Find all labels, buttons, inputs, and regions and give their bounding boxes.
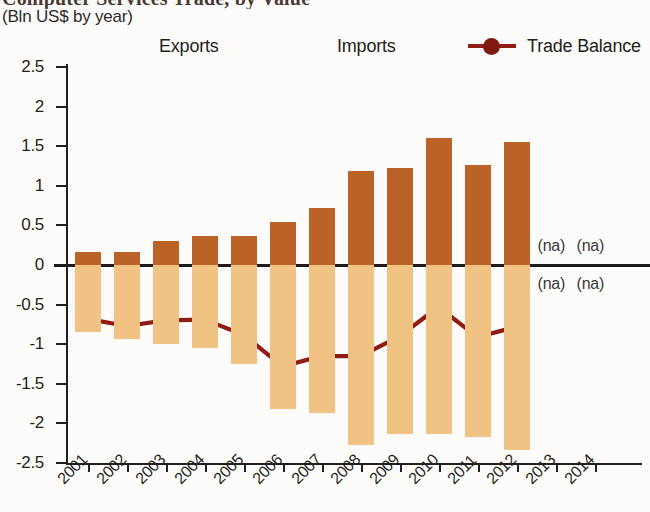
- legend-item-exports[interactable]: Exports: [118, 33, 219, 59]
- chart-plot: 2.521.510.50-0.5-1-1.5-2-2.5 (na)(na)(na…: [0, 59, 644, 469]
- bar-imports-2002: [114, 265, 140, 339]
- bar-imports-2012: [504, 265, 530, 450]
- chart-legend: Exports Imports Trade Balance: [0, 33, 644, 59]
- bar-exports-2010: [426, 138, 452, 265]
- legend-line-marker-icon: [468, 36, 516, 56]
- legend-item-imports[interactable]: Imports: [296, 33, 396, 59]
- y-axis-tick-label: 0: [35, 255, 44, 275]
- chart-subtitle: (Bln US$ by year): [2, 7, 133, 27]
- y-axis-tick-label: 0.5: [21, 215, 44, 235]
- bar-imports-2004: [192, 265, 218, 348]
- y-axis-tick-label: 1: [35, 176, 44, 196]
- legend-label-imports: Imports: [337, 36, 396, 57]
- legend-label-trade-balance: Trade Balance: [527, 36, 641, 57]
- bar-imports-2008: [348, 265, 374, 445]
- bar-imports-2003: [153, 265, 179, 344]
- bar-exports-2007: [309, 208, 335, 265]
- y-axis-tick-label: -1: [29, 334, 44, 354]
- y-axis-tick-label: -0.5: [16, 295, 44, 315]
- na-label-2014-exports: (na): [577, 237, 605, 255]
- bar-exports-2005: [231, 236, 257, 265]
- y-axis-tick-label: 2: [35, 97, 44, 117]
- bar-imports-2001: [75, 265, 101, 332]
- bar-imports-2007: [309, 265, 335, 413]
- bar-imports-2009: [387, 265, 413, 434]
- bar-exports-2009: [387, 168, 413, 265]
- plot-area: (na)(na)(na)(na): [68, 59, 640, 469]
- bar-exports-2011: [465, 165, 491, 265]
- bar-exports-2004: [192, 236, 218, 265]
- bar-exports-2008: [348, 171, 374, 265]
- na-label-2014-imports: (na): [577, 275, 605, 293]
- legend-item-trade-balance[interactable]: Trade Balance: [468, 33, 641, 59]
- bar-imports-2006: [270, 265, 296, 409]
- bar-exports-2012: [504, 142, 530, 265]
- na-label-2013-exports: (na): [538, 237, 566, 255]
- y-axis-tick-label: 2.5: [21, 57, 44, 77]
- legend-swatch-exports-icon: [118, 36, 148, 56]
- na-label-2013-imports: (na): [538, 275, 566, 293]
- bar-imports-2011: [465, 265, 491, 437]
- bar-exports-2001: [75, 252, 101, 265]
- y-axis-tick-label: -2: [29, 413, 44, 433]
- legend-label-exports: Exports: [159, 36, 219, 57]
- y-axis: 2.521.510.50-0.5-1-1.5-2-2.5: [0, 59, 60, 469]
- y-axis-tick-label: 1.5: [21, 136, 44, 156]
- bar-imports-2010: [426, 265, 452, 434]
- bar-imports-2005: [231, 265, 257, 364]
- legend-swatch-imports-icon: [296, 36, 326, 56]
- bar-exports-2003: [153, 241, 179, 265]
- y-axis-tick-label: -2.5: [16, 453, 44, 473]
- y-axis-tick-label: -1.5: [16, 374, 44, 394]
- bar-exports-2006: [270, 222, 296, 265]
- bar-exports-2002: [114, 252, 140, 265]
- x-axis: 2001200220032004200520062007200820092010…: [68, 463, 644, 512]
